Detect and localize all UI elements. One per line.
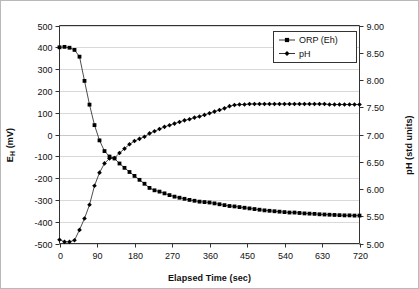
y-left-axis-title-unit: (mV) [5, 127, 15, 150]
data-point-marker [277, 102, 282, 107]
data-point-marker [253, 207, 257, 211]
data-point-marker [207, 111, 212, 116]
data-point-marker [82, 216, 87, 221]
y-left-axis-title: EH (mV) [5, 100, 16, 190]
y-left-tick-label: -500 [34, 240, 52, 250]
data-point-marker [242, 102, 247, 107]
data-point-marker [118, 162, 122, 166]
series-line [60, 47, 360, 216]
data-point-marker [78, 55, 82, 59]
data-point-marker [313, 212, 317, 216]
data-point-marker [153, 188, 157, 192]
data-point-marker [223, 203, 227, 207]
data-point-marker [162, 125, 167, 130]
data-point-marker [268, 209, 272, 213]
data-point-marker [337, 102, 342, 107]
data-point-marker [148, 186, 152, 190]
data-point-marker [158, 190, 162, 194]
y-left-tick-label: -400 [34, 218, 52, 228]
data-point-marker [293, 211, 297, 215]
data-point-marker [283, 210, 287, 214]
x-tick-label: 270 [165, 251, 180, 261]
y-left-tick-label: 400 [37, 43, 52, 53]
data-point-marker [198, 200, 202, 204]
x-tick-label: 450 [240, 251, 255, 261]
data-point-marker [262, 102, 267, 107]
data-point-marker [232, 103, 237, 108]
data-point-marker [312, 102, 317, 107]
data-point-marker [68, 46, 72, 50]
data-point-marker [332, 102, 337, 107]
data-point-marker [183, 197, 187, 201]
y-left-tick-label: -300 [34, 196, 52, 206]
y-right-tick-label: 5.50 [367, 212, 385, 222]
x-tick-label: 360 [203, 251, 218, 261]
data-point-marker [297, 102, 302, 107]
data-point-marker [123, 166, 127, 170]
data-point-marker [192, 115, 197, 120]
data-point-marker [152, 129, 157, 134]
data-point-marker [247, 102, 252, 107]
y-left-tick-label: 200 [37, 87, 52, 97]
data-point-marker [208, 201, 212, 205]
x-tick-label: 630 [315, 251, 330, 261]
series-line [60, 104, 360, 242]
data-point-marker [318, 212, 322, 216]
data-point-marker [187, 117, 192, 122]
data-point-marker [217, 108, 222, 113]
x-axis-ticks: 090180270360450540630720 [58, 244, 368, 261]
data-point-marker [188, 198, 192, 202]
data-point-marker [143, 182, 147, 186]
data-point-marker [168, 193, 172, 197]
x-tick-label: 180 [128, 251, 143, 261]
data-point-marker [97, 170, 102, 175]
data-point-marker [338, 213, 342, 217]
data-point-marker [307, 102, 312, 107]
data-point-marker [342, 102, 347, 107]
data-point-marker [227, 104, 232, 109]
data-point-marker [333, 213, 337, 217]
data-point-marker [73, 48, 77, 52]
data-point-marker [278, 210, 282, 214]
data-point-marker [57, 237, 62, 242]
chart-figure: 090180270360450540630720 -500-400-300-20… [0, 0, 419, 289]
data-point-marker [177, 120, 182, 125]
data-point-marker [327, 102, 332, 107]
data-point-marker [98, 138, 102, 142]
data-point-marker [238, 205, 242, 209]
data-point-marker [258, 208, 262, 212]
data-point-marker [63, 45, 67, 49]
x-tick-label: 540 [278, 251, 293, 261]
data-point-marker [288, 211, 292, 215]
y-right-tick-label: 6.00 [367, 185, 385, 195]
y-right-tick-label: 7.50 [367, 103, 385, 113]
data-point-marker [237, 102, 242, 107]
data-point-marker [138, 178, 142, 182]
data-point-marker [222, 106, 227, 111]
data-point-marker [317, 102, 322, 107]
y-left-axis-ticks: -500-400-300-200-1000100200300400500 [34, 22, 59, 250]
data-point-marker [92, 183, 97, 188]
data-point-marker [243, 206, 247, 210]
data-point-marker [303, 212, 307, 216]
data-point-marker [132, 139, 137, 144]
y-left-tick-label: 500 [37, 22, 52, 32]
y-right-axis-ticks: 5.005.506.006.507.007.508.008.509.00 [360, 22, 385, 250]
data-point-marker [88, 103, 92, 107]
y-right-tick-label: 8.00 [367, 76, 385, 86]
data-point-marker [257, 102, 262, 107]
data-point-marker [87, 203, 92, 208]
data-point-marker [213, 201, 217, 205]
data-point-marker [292, 102, 297, 107]
data-point-marker [133, 174, 137, 178]
data-point-marker [273, 209, 277, 213]
data-series-layer [57, 45, 362, 244]
series-orp [58, 45, 362, 218]
data-point-marker [287, 102, 292, 107]
x-axis-title: Elapsed Time (sec) [1, 273, 418, 283]
y-right-tick-label: 9.00 [367, 22, 385, 32]
data-point-marker [228, 204, 232, 208]
y-right-tick-label: 5.00 [367, 240, 385, 250]
y-left-tick-label: -100 [34, 152, 52, 162]
data-point-marker [353, 214, 357, 218]
